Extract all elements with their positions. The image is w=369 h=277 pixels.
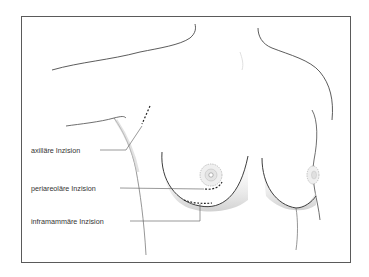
right-neck-outline (258, 28, 333, 120)
left-areola-icon (200, 164, 222, 186)
torso-illustration (0, 0, 369, 277)
periareolar-incision-label: periareoläre Inzision (31, 184, 96, 193)
axillary-incision-marker (142, 106, 150, 124)
right-breast-shading (262, 158, 316, 210)
axillary-incision-label: axilläre Inzision (31, 146, 80, 155)
right-areola-icon (307, 166, 319, 184)
right-breast-outline (262, 158, 316, 208)
left-flank-outline (114, 118, 146, 255)
periareolar-leader-line (120, 188, 204, 189)
inframammary-incision-label: inframammäre Inzision (31, 217, 104, 226)
left-shoulder-outline (52, 24, 195, 70)
